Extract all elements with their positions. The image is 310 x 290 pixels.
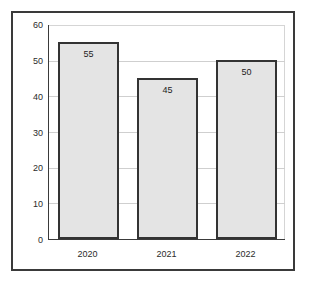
bar-value-label: 45 xyxy=(139,85,195,95)
bar-2021[interactable]: 45 xyxy=(137,78,197,239)
y-tick-label-40: 40 xyxy=(33,92,43,102)
bar-value-label: 50 xyxy=(218,67,274,77)
y-tick-label-10: 10 xyxy=(33,199,43,209)
y-axis-tick-labels: 0 10 20 30 40 50 60 xyxy=(18,25,43,240)
bar-value-label: 55 xyxy=(60,49,116,59)
y-tick-label-0: 0 xyxy=(38,235,43,245)
y-tick-label-60: 60 xyxy=(33,20,43,30)
plot-top-edge xyxy=(49,25,285,26)
bar-2022[interactable]: 50 xyxy=(216,60,276,239)
y-tick-label-50: 50 xyxy=(33,56,43,66)
bar-chart-figure: 0 10 20 30 40 50 60 55 45 50 2020 2021 2… xyxy=(0,0,310,290)
x-tick-label-2020: 2020 xyxy=(58,249,118,259)
x-tick-label-2022: 2022 xyxy=(216,249,276,259)
plot-area: 55 45 50 xyxy=(48,25,285,240)
y-tick-label-30: 30 xyxy=(33,128,43,138)
y-tick-label-20: 20 xyxy=(33,163,43,173)
bar-2020[interactable]: 55 xyxy=(58,42,118,239)
x-tick-label-2021: 2021 xyxy=(137,249,197,259)
